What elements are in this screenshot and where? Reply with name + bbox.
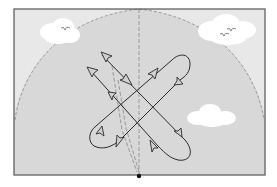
sky-diagram bbox=[0, 0, 277, 187]
diagram-stage bbox=[0, 0, 277, 187]
observer-point bbox=[137, 174, 141, 178]
